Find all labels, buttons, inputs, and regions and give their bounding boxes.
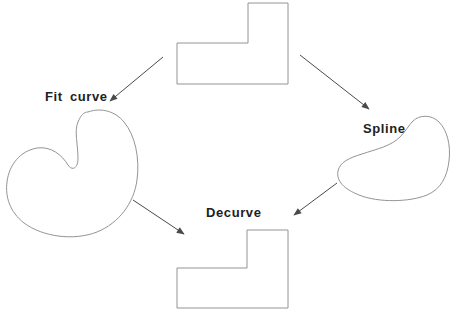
spline-label: Spline (363, 121, 406, 136)
arrow-original-to-spline (300, 55, 369, 109)
original-polyline-shape (177, 3, 288, 84)
diagram-canvas: Fit curve Spline Decurve (0, 0, 454, 318)
arrow-original-to-fit-curve (110, 57, 163, 101)
fit-curve-label: Fit curve (45, 89, 108, 104)
decurved-polyline-shape (177, 230, 288, 308)
arrow-fit-curve-to-decurve (133, 200, 184, 234)
diagram-svg: Fit curve Spline Decurve (0, 0, 454, 318)
decurve-label: Decurve (206, 205, 262, 220)
fit-curve-blob-shape (7, 110, 138, 237)
arrow-spline-to-decurve (294, 183, 337, 215)
